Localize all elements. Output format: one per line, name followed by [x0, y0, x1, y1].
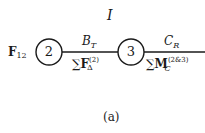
- edge-2-3-label-below: ∑F(2)Δ: [72, 57, 93, 72]
- top-label: I: [107, 8, 113, 22]
- node-2-label: 2: [36, 39, 62, 65]
- input-force-label: F12: [8, 46, 27, 60]
- figure-caption: (a): [103, 111, 120, 123]
- edge-2-3-label-above: BT: [82, 35, 96, 50]
- node-3-label: 3: [118, 39, 144, 65]
- edge-3-out-label-below: ∑M(2&3)C: [146, 57, 171, 73]
- diagram-canvas: I F12 2 3 BT ∑F(2)Δ CR ∑M(2&3)C (a): [0, 0, 205, 133]
- edge-3-out-label-above: CR: [164, 35, 179, 50]
